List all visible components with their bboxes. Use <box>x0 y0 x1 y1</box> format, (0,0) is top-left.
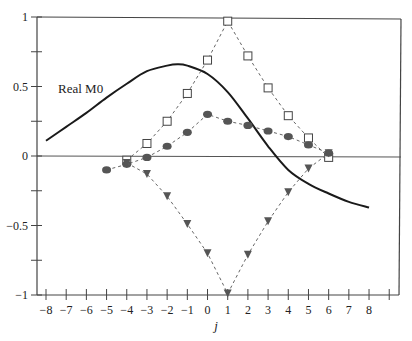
triangle-marker <box>183 220 191 228</box>
square-marker <box>143 139 151 147</box>
square-marker <box>183 89 191 97</box>
square-marker <box>304 134 312 142</box>
x-tick-label: 6 <box>326 303 332 317</box>
square-marker <box>284 112 292 120</box>
real-m0-label: Real M0 <box>58 81 103 96</box>
series <box>46 17 369 297</box>
x-tick-label: −7 <box>60 303 73 317</box>
square-marker <box>163 117 171 125</box>
triangle-marker <box>264 217 272 225</box>
circle-marker <box>163 143 172 150</box>
circle-marker <box>284 133 293 140</box>
x-tick-label: 1 <box>225 303 231 317</box>
x-tick-label: 7 <box>346 303 352 317</box>
x-tick-label: −8 <box>40 303 53 317</box>
square-marker <box>244 52 252 60</box>
triangle-marker <box>204 249 212 257</box>
circle-marker <box>243 122 252 129</box>
circle-marker <box>223 118 232 125</box>
square-marker <box>204 56 212 64</box>
x-tick-label: 4 <box>285 303 291 317</box>
x-tick-label: −5 <box>100 303 113 317</box>
x-tick-label: −2 <box>161 303 174 317</box>
x-tick-label: 3 <box>265 303 271 317</box>
x-tick-label: 8 <box>366 303 372 317</box>
chart-svg: −8−7−6−5−4−3−2−101234567810.50−0.5−1 Rea… <box>0 0 412 341</box>
triangle-marker <box>244 251 252 259</box>
x-tick-label: 0 <box>205 303 211 317</box>
triangle-marker <box>224 290 232 298</box>
triangle-marker <box>143 170 151 178</box>
y-tick-label: 0 <box>22 149 28 163</box>
axes: −8−7−6−5−4−3−2−101234567810.50−0.5−1 <box>6 10 389 317</box>
circle-marker <box>264 127 273 134</box>
y-tick-label: −1 <box>15 288 28 302</box>
square-marker <box>224 17 232 25</box>
x-tick-label: 5 <box>305 303 311 317</box>
x-tick-label: −3 <box>141 303 154 317</box>
x-tick-label: 2 <box>245 303 251 317</box>
zero-line <box>37 156 401 157</box>
x-tick-label: −6 <box>80 303 93 317</box>
y-tick-label: −0.5 <box>6 219 28 233</box>
top-border <box>37 17 401 19</box>
dashed-connector <box>107 114 329 170</box>
x-tick-label: −4 <box>120 303 133 317</box>
triangle-marker <box>284 188 292 196</box>
triangle-marker <box>163 192 171 200</box>
circle-marker <box>183 129 192 136</box>
square-marker <box>264 84 272 92</box>
chart: −8−7−6−5−4−3−2−101234567810.50−0.5−1 Rea… <box>0 0 412 341</box>
x-axis-title: j <box>212 318 218 333</box>
circle-marker <box>203 111 212 118</box>
y-tick-label: 1 <box>22 10 28 24</box>
dashed-connector <box>127 153 329 293</box>
x-tick-label: −1 <box>181 303 194 317</box>
series-triangles <box>123 149 333 297</box>
y-tick-label: 0.5 <box>13 80 28 94</box>
series-circles <box>102 111 333 174</box>
plot-frame <box>37 17 401 295</box>
circle-marker <box>102 166 111 173</box>
circle-marker <box>304 141 313 148</box>
circle-marker <box>142 154 151 161</box>
